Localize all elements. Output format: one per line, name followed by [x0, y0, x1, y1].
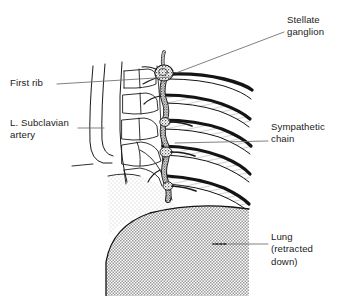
anatomical-figure: Stellateganglion First rib L. Subclavian…: [0, 0, 349, 296]
label-subclavian-artery-line2: artery: [10, 129, 35, 140]
label-lung: Lung(retracteddown): [271, 231, 313, 268]
vertebral-bodies: [120, 62, 164, 186]
label-sympathetic-chain-line2: chain: [271, 133, 294, 144]
label-sympathetic-chain-line1: Sympathetic: [271, 121, 325, 132]
label-stellate-ganglion-line1: Stellate: [287, 14, 320, 25]
stellate-ganglion: [142, 65, 173, 84]
label-stellate-ganglion: Stellateganglion: [287, 14, 324, 39]
label-subclavian-artery-line1: L. Subclavian: [10, 117, 69, 128]
label-first-rib-line1: First rib: [10, 77, 43, 88]
label-lung-line2: (retracted: [271, 243, 313, 254]
label-first-rib: First rib: [10, 77, 43, 89]
label-lung-line3: down): [271, 256, 298, 267]
label-lung-line1: Lung: [271, 231, 293, 242]
label-sympathetic-chain: Sympatheticchain: [271, 121, 325, 146]
label-subclavian-artery: L. Subclavianartery: [10, 117, 69, 142]
label-stellate-ganglion-line2: ganglion: [287, 26, 324, 37]
leader-sympathetic: [175, 141, 268, 143]
leader-stellate-ganglion: [176, 32, 284, 73]
subclavian-artery: [72, 64, 113, 166]
leader-first-rib: [57, 77, 172, 84]
